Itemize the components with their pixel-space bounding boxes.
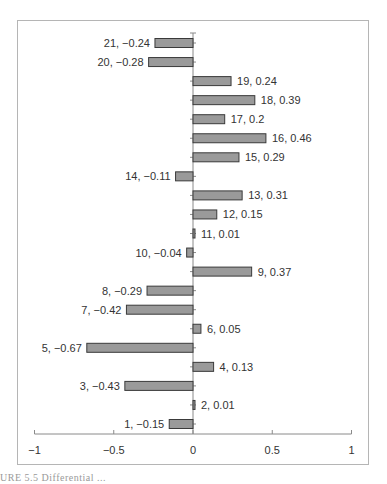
bar-15 — [193, 153, 239, 162]
bar-10 — [187, 248, 193, 257]
bar-5 — [87, 343, 193, 352]
data-label: 14, −0.11 — [125, 170, 170, 182]
bar-14 — [176, 172, 193, 181]
data-label: 2, 0.01 — [201, 399, 235, 411]
data-label: 6, 0.05 — [207, 323, 241, 335]
data-label: 7, −0.42 — [81, 304, 121, 316]
data-label: 15, 0.29 — [245, 151, 285, 163]
bar-17 — [193, 115, 225, 124]
x-tick-label: −0.5 — [103, 444, 125, 456]
bar-19 — [193, 77, 231, 86]
bar-13 — [193, 191, 242, 200]
x-tick-label: 1 — [348, 444, 354, 456]
data-label: 16, 0.46 — [272, 132, 312, 144]
bar-6 — [193, 324, 201, 333]
data-label: 10, −0.04 — [135, 247, 181, 259]
x-tick-label: 0.5 — [265, 444, 280, 456]
data-label: 4, 0.13 — [220, 361, 254, 373]
x-tick-label: 0 — [190, 444, 196, 456]
bar-4 — [193, 362, 214, 371]
data-label: 12, 0.15 — [223, 208, 263, 220]
data-label: 19, 0.24 — [237, 75, 277, 87]
data-label: 11, 0.01 — [201, 228, 240, 240]
data-label: 8, −0.29 — [102, 285, 142, 297]
data-label: 18, 0.39 — [261, 94, 301, 106]
bar-11 — [193, 229, 195, 238]
bar-2 — [193, 400, 195, 409]
bar-16 — [193, 134, 266, 143]
x-tick-label: −1 — [28, 444, 41, 456]
bar-8 — [147, 286, 193, 295]
bar-7 — [126, 305, 193, 314]
bar-12 — [193, 210, 217, 219]
bar-3 — [125, 381, 193, 390]
bar-1 — [169, 420, 193, 429]
data-label: 1, −0.15 — [124, 418, 164, 430]
data-label: 21, −0.24 — [104, 37, 150, 49]
data-label: 13, 0.31 — [248, 189, 288, 201]
data-label: 17, 0.2 — [231, 113, 265, 125]
data-label: 3, −0.43 — [80, 380, 120, 392]
bar-18 — [193, 96, 255, 105]
data-label: 9, 0.37 — [258, 266, 292, 278]
horizontal-bar-chart: −1−0.500.511, −0.152, 0.013, −0.434, 0.1… — [0, 0, 387, 484]
figure-caption: URE 5.5 Differential ... — [0, 472, 106, 483]
bar-20 — [149, 58, 193, 67]
data-label: 20, −0.28 — [97, 56, 143, 68]
data-label: 5, −0.67 — [42, 342, 82, 354]
bar-9 — [193, 267, 252, 276]
bar-21 — [155, 39, 193, 48]
